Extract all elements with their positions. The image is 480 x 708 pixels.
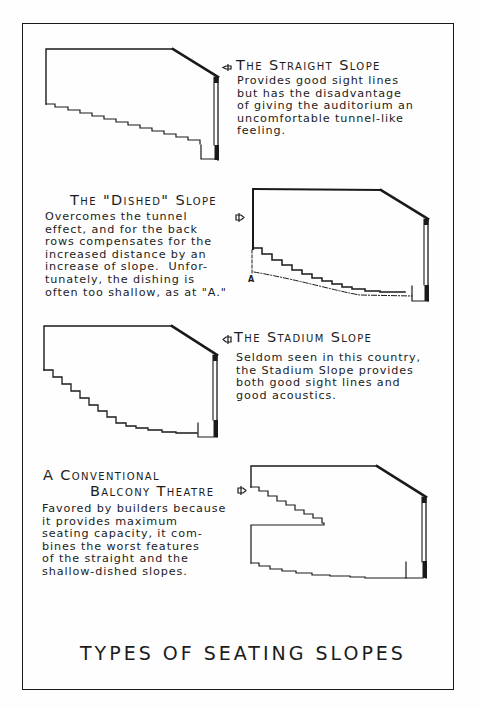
stadium-slope-heading: The Stadium Slope: [234, 329, 372, 345]
stadium-slope-diagram: [44, 326, 218, 437]
arrow-pointer-icon: [238, 487, 246, 495]
illustration-page: The Straight Slope Provides good sight l…: [0, 0, 480, 708]
arrow-pointer-icon: [236, 214, 244, 222]
arrow-pointer-icon: [223, 65, 231, 71]
balcony-heading-line2: Balcony Theatre: [90, 483, 215, 499]
balcony-description: Favored by builders because it provides …: [42, 503, 226, 579]
page-title: TYPES OF SEATING SLOPES: [80, 642, 406, 664]
straight-slope-description: Provides good sight lines but has the di…: [237, 75, 414, 138]
straight-slope-diagram: [46, 49, 219, 160]
straight-slope-heading: The Straight Slope: [236, 57, 381, 73]
dished-marker-label: A: [248, 275, 254, 284]
dished-slope-description: Overcomes the tunnel effect, and for the…: [45, 211, 227, 299]
balcony-theatre-diagram: [251, 466, 427, 578]
dished-slope-heading: The "Dished" Slope: [70, 192, 217, 208]
arrow-pointer-icon: [223, 336, 231, 344]
balcony-heading-line1: A Conventional: [43, 467, 160, 483]
dished-slope-diagram: [252, 189, 429, 301]
stadium-slope-description: Seldom seen in this country, the Stadium…: [236, 352, 421, 402]
